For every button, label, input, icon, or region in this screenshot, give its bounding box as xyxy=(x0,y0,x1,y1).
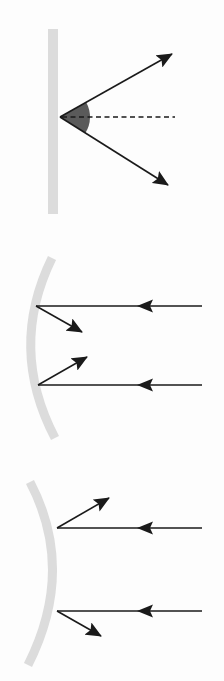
plane-mirror xyxy=(48,29,58,214)
ray-up-arrow xyxy=(60,54,172,117)
reflection-diagram xyxy=(0,0,224,681)
reflected-ray-arrow xyxy=(36,306,82,332)
convex-mirror-panel xyxy=(28,482,202,665)
reflected-ray-arrow xyxy=(57,498,109,528)
concave-mirror-panel xyxy=(31,258,202,438)
convex-mirror xyxy=(28,482,53,665)
concave-mirror xyxy=(31,258,55,438)
ray-down-arrow xyxy=(60,117,168,185)
diagram-canvas: Plane mirror reflection Concave mirror r… xyxy=(0,0,224,681)
plane-mirror-panel xyxy=(48,29,175,214)
reflected-ray-arrow xyxy=(38,357,87,385)
reflected-ray-arrow xyxy=(57,611,101,636)
